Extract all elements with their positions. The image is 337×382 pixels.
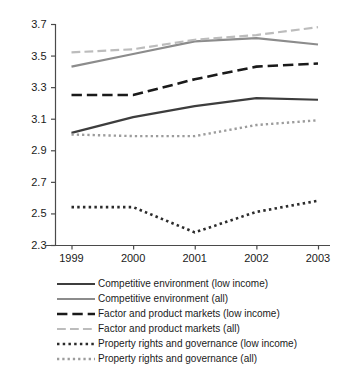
legend-label: Competitive environment (all) — [98, 293, 228, 304]
y-axis-tick-label: 3.1 — [31, 113, 46, 125]
legend-row[interactable]: Property rights and governance (all) — [0, 351, 337, 366]
legend-swatch-line-icon — [57, 322, 95, 336]
y-axis-tick-label: 3.7 — [31, 18, 46, 30]
y-axis-tick-label: 2.7 — [31, 176, 46, 188]
legend-label: Factor and product markets (low income) — [98, 308, 280, 319]
legend-row[interactable]: Competitive environment (all) — [0, 291, 337, 306]
x-axis-tick-labels: 19992000200120022003 — [59, 252, 330, 264]
chart-figure: 2.32.52.72.93.13.33.53.7 199920002001200… — [0, 0, 337, 382]
legend-swatch-line-icon — [57, 292, 95, 306]
y-axis-tick-label: 3.3 — [31, 81, 46, 93]
legend-label: Factor and product markets (all) — [98, 323, 240, 334]
legend-row[interactable]: Factor and product markets (all) — [0, 321, 337, 336]
legend-swatch-line-icon — [57, 337, 95, 351]
plot-area: 2.32.52.72.93.13.33.53.7 199920002001200… — [0, 0, 337, 272]
series-line-1 — [72, 38, 319, 66]
legend-label: Property rights and governance (all) — [98, 353, 257, 364]
x-axis-tick-label: 2003 — [306, 252, 330, 264]
y-axis-tick-labels: 2.32.52.72.93.13.33.53.7 — [31, 18, 46, 251]
legend-swatch-line-icon — [57, 352, 95, 366]
series-line-4 — [72, 201, 319, 233]
x-axis-tick-label: 1999 — [59, 252, 83, 264]
legend-row[interactable]: Factor and product markets (low income) — [0, 306, 337, 321]
chart-legend: Competitive environment (low income)Comp… — [0, 276, 337, 382]
legend-row[interactable]: Property rights and governance (low inco… — [0, 336, 337, 351]
line-chart-svg: 2.32.52.72.93.13.33.53.7 199920002001200… — [0, 0, 337, 272]
legend-label: Competitive environment (low income) — [98, 278, 268, 289]
x-axis-tick-label: 2000 — [121, 252, 145, 264]
legend-row[interactable]: Competitive environment (low income) — [0, 276, 337, 291]
data-series-group — [72, 27, 319, 232]
y-axis-tick-label: 2.5 — [31, 207, 46, 219]
x-axis-tick-label: 2002 — [244, 252, 268, 264]
legend-swatch-line-icon — [57, 277, 95, 291]
y-axis-tick-marks — [51, 25, 56, 246]
series-line-0 — [72, 98, 319, 133]
x-axis-tick-label: 2001 — [183, 252, 207, 264]
legend-swatch-line-icon — [57, 307, 95, 321]
y-axis-tick-label: 2.3 — [31, 239, 46, 251]
series-line-2 — [72, 63, 319, 95]
legend-label: Property rights and governance (low inco… — [98, 338, 297, 349]
y-axis-tick-label: 3.5 — [31, 50, 46, 62]
y-axis-tick-label: 2.9 — [31, 144, 46, 156]
